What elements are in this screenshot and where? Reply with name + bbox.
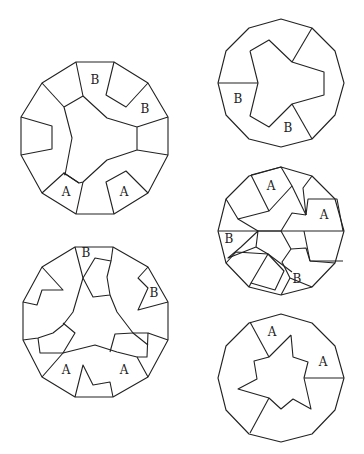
partition-line [38,323,75,353]
partition-line [42,345,148,377]
region-label-b: B [150,286,159,300]
region-label-b: B [234,92,243,106]
figure-top-left: BBAA [21,62,168,214]
region-label-b: B [141,102,150,116]
region-label-a: A [61,185,71,199]
region-label-a: A [267,325,277,339]
figure-bottom-right: AA [218,314,344,442]
region-label-a: A [266,179,276,193]
partition-line [250,322,269,357]
partition-line [250,40,324,127]
region-label-b: B [82,246,91,260]
partition-line [76,182,83,214]
region-label-a: A [319,208,329,222]
partition-line [303,176,312,215]
partition-line [110,295,148,345]
partition-line [23,267,63,305]
partition-line [292,104,312,139]
partition-line [42,96,137,193]
partition-line [256,247,292,272]
region-label-a: A [318,355,328,369]
partition-line [21,117,52,155]
partition-line [137,150,168,155]
partition-line [281,278,290,295]
diagram-canvas: BBAA BB AABB BBAA AA [0,0,364,454]
region-label-b: B [91,73,100,87]
region-label-a: A [119,185,129,199]
region-label-b: B [293,272,302,286]
partition-line [111,247,113,261]
partition-line [292,28,312,62]
partition-line [226,252,284,290]
partition-line [137,117,168,127]
partition-line [110,333,133,352]
figure-top-right: BB [218,19,344,147]
partition-line [133,333,148,357]
partition-line [42,83,64,107]
region-label-a: A [119,363,129,377]
partition-line [148,333,168,340]
partition-line [64,62,83,183]
figure-bottom-left: BBAA [23,246,168,397]
region-label-a: A [61,363,71,377]
region-label-b: B [225,232,234,246]
partition-line [249,283,251,287]
partition-line [226,175,269,219]
partition-line [238,335,311,409]
figure-middle-right: AABB [218,167,344,295]
partition-line [258,213,306,231]
partition-line [106,62,148,107]
partition-line [83,258,111,297]
region-label-b: B [284,121,293,135]
partition-line [75,365,113,397]
partition-line [250,398,269,433]
